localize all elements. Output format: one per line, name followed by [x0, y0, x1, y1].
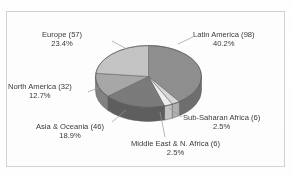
slice-label-middle-east-n-africa: Middle East & N. Africa (6) 2.5%: [131, 139, 220, 157]
pie-chart: Latin America (98) 40.2% Europe (57) 23.…: [0, 0, 292, 176]
slice-label-europe: Europe (57) 23.4%: [42, 30, 82, 48]
slice-label-latin-america-percent: 40.2%: [193, 39, 255, 48]
slice-label-middle-east-n-africa-name: Middle East & N. Africa (6): [131, 139, 220, 148]
slice-label-north-america-percent: 12.7%: [8, 91, 72, 100]
leader-line-europe: [112, 41, 127, 49]
pie-slice-europe: [96, 46, 149, 77]
slice-label-sub-saharan-africa: Sub-Saharan Africa (6) 2.5%: [183, 113, 260, 131]
slice-label-europe-percent: 23.4%: [42, 39, 82, 48]
slice-label-north-america: North America (32) 12.7%: [8, 82, 72, 100]
slice-label-asia-oceania-name: Asia & Oceania (46): [36, 122, 104, 131]
slice-label-latin-america: Latin America (98) 40.2%: [193, 30, 255, 48]
slice-label-latin-america-name: Latin America (98): [193, 30, 255, 39]
slice-label-middle-east-n-africa-percent: 2.5%: [131, 148, 220, 157]
slice-label-asia-oceania: Asia & Oceania (46) 18.9%: [36, 122, 104, 140]
leader-line-latin-america: [178, 37, 193, 44]
pie-slices-group: [95, 46, 201, 122]
slice-label-north-america-name: North America (32): [8, 82, 72, 91]
slice-label-asia-oceania-percent: 18.9%: [36, 131, 104, 140]
slice-label-europe-name: Europe (57): [42, 30, 82, 39]
slice-label-sub-saharan-africa-percent: 2.5%: [183, 122, 260, 131]
slice-label-sub-saharan-africa-name: Sub-Saharan Africa (6): [183, 113, 260, 122]
pie-slice-side-middle-east-n-africa: [165, 104, 173, 120]
